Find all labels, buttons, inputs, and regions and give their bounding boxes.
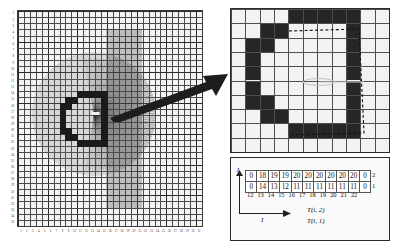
y-tick-label: 26	[5, 166, 14, 169]
y-tick-label: 14	[5, 92, 14, 95]
axis-label-i: I	[261, 216, 263, 224]
zoom-grid-line-vertical	[389, 9, 390, 152]
axis-line-vertical	[239, 174, 240, 214]
column-label: 13	[255, 191, 265, 198]
table-cell[interactable]: 0	[246, 171, 257, 182]
annotation-t-i-2: T(i, 2)	[307, 206, 325, 214]
column-label: 14	[266, 191, 276, 198]
table-cell[interactable]: 20	[314, 171, 325, 182]
y-tick-label: 21	[5, 135, 14, 138]
y-tick-label: 10	[5, 68, 14, 71]
y-tick-label: 22	[5, 141, 14, 144]
point-source-marker	[91, 112, 100, 115]
column-label: 16	[287, 191, 297, 198]
axis-line-horizontal	[239, 213, 285, 214]
ray-path-outline	[231, 9, 389, 152]
magnify-arrow-icon	[110, 72, 228, 122]
column-label: 21	[339, 191, 349, 198]
table-cell[interactable]: 20	[302, 171, 313, 182]
table-cell[interactable]: 0	[359, 182, 370, 193]
y-tick-label: 8	[5, 55, 14, 58]
table-cell[interactable]: 0	[359, 171, 370, 182]
column-label: 15	[276, 191, 286, 198]
y-tick-label: 34	[5, 215, 14, 218]
y-tick-label: 25	[5, 160, 14, 163]
y-tick-label: 15	[5, 98, 14, 101]
column-labels: 1213141516171819202122	[245, 191, 359, 198]
y-tick-label: 13	[5, 86, 14, 89]
table-cell[interactable]: 19	[268, 171, 279, 182]
obstacle-cell	[65, 103, 72, 110]
y-tick-label: 31	[5, 197, 14, 200]
simulation-grid-panel: 1234567891011121314151617181920212223242…	[0, 0, 218, 247]
table-cell[interactable]: 20	[325, 171, 336, 182]
y-tick-label: 32	[5, 203, 14, 206]
y-tick-label: 11	[5, 74, 14, 77]
table-cell[interactable]: 20	[337, 171, 348, 182]
y-tick-label: 24	[5, 154, 14, 157]
y-tick-label: 27	[5, 172, 14, 175]
y-tick-label: 33	[5, 209, 14, 212]
zoom-grid-line-horizontal	[231, 152, 389, 153]
grid-line-horizontal	[18, 226, 202, 227]
row-label-2: 2	[372, 171, 375, 178]
y-tick-label: 2	[5, 19, 14, 22]
y-tick-label: 5	[5, 37, 14, 40]
column-label: 12	[245, 191, 255, 198]
y-tick-label: 23	[5, 148, 14, 151]
y-tick-label: 6	[5, 43, 14, 46]
y-tick-label: 16	[5, 105, 14, 108]
table-row[interactable]: 01819192020202020200	[246, 171, 371, 182]
x-tick-label: 31	[195, 230, 203, 233]
column-label: 17	[297, 191, 307, 198]
column-label: 19	[318, 191, 328, 198]
obstacle-cell	[71, 97, 78, 104]
sample-values-table-panel: J 01819192020202020200 01413121111111111…	[230, 157, 390, 241]
y-tick-label: 3	[5, 25, 14, 28]
y-tick-label: 30	[5, 191, 14, 194]
y-tick-label: 17	[5, 111, 14, 114]
y-tick-label: 12	[5, 80, 14, 83]
magnified-cells-panel[interactable]	[230, 8, 390, 153]
axis-arrow-up-icon	[236, 170, 243, 177]
y-tick-label: 20	[5, 129, 14, 132]
axis-arrow-right-icon	[283, 210, 291, 217]
y-tick-label: 19	[5, 123, 14, 126]
y-tick-label: 29	[5, 184, 14, 187]
values-table[interactable]: 01819192020202020200 0141312111111111111…	[245, 170, 371, 193]
annotation-t-i-1: T(i, 1)	[307, 217, 325, 225]
table-cell[interactable]: 20	[291, 171, 302, 182]
y-tick-label: 28	[5, 178, 14, 181]
y-tick-label: 4	[5, 31, 14, 34]
table-cell[interactable]: 19	[280, 171, 291, 182]
table-cell[interactable]: 20	[348, 171, 359, 182]
column-label: 22	[349, 191, 359, 198]
table-cell[interactable]: 18	[257, 171, 268, 182]
column-label: 20	[328, 191, 338, 198]
y-tick-label: 9	[5, 62, 14, 65]
y-tick-label: 1	[5, 12, 14, 15]
y-tick-label: 18	[5, 117, 14, 120]
obstacle-cell	[101, 140, 108, 147]
y-tick-label: 35	[5, 221, 14, 224]
row-label-1: 1	[372, 182, 375, 189]
column-label: 18	[307, 191, 317, 198]
y-tick-label: 7	[5, 49, 14, 52]
